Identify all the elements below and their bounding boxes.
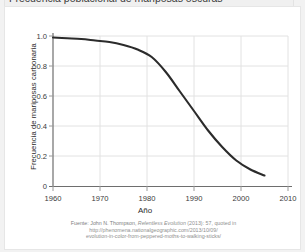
citation-prefix: Fuente: John N. Thompson,: [71, 220, 138, 226]
data-series-line: [53, 38, 265, 176]
x-tick-2010: 2010: [280, 194, 297, 203]
x-tick-1970: 1970: [92, 194, 109, 203]
source-citation: Fuente: John N. Thompson, Relentless Evo…: [5, 220, 302, 240]
x-tick-1990: 1990: [186, 194, 203, 203]
citation-line-3: evolution-in-color-from-peppered-moths-t…: [5, 233, 302, 240]
y-tick-0-6: 0.6: [23, 92, 47, 101]
page-title: Frecuencia poblacional de mariposas oscu…: [9, 0, 223, 5]
citation-line-1: Fuente: John N. Thompson, Relentless Evo…: [5, 220, 302, 227]
y-tick-0-8: 0.8: [23, 62, 47, 71]
axis-tick-marks: [49, 36, 288, 191]
citation-work-title: Relentless Evolution: [138, 220, 186, 226]
grid-lines: [53, 36, 288, 186]
x-tick-1980: 1980: [139, 194, 156, 203]
x-axis-ticks: 1960 1970 1980 1990 2000 2010: [5, 194, 302, 206]
y-tick-1-0: 1.0: [23, 32, 47, 41]
chart-canvas: [5, 7, 302, 212]
y-tick-0-4: 0.4: [23, 122, 47, 131]
chart-plot-area: Frecuencia de mariposas carbonaria 0 0.2…: [5, 7, 302, 212]
citation-line-2: http://phenomena.nationalgeographic.com/…: [5, 227, 302, 234]
citation-suffix: (2013): 57, quoted in: [186, 220, 236, 226]
y-tick-0: 0: [23, 182, 47, 191]
y-axis-ticks: 0 0.2 0.4 0.6 0.8 1.0: [19, 7, 47, 212]
x-tick-1960: 1960: [45, 194, 62, 203]
y-tick-0-2: 0.2: [23, 152, 47, 161]
x-tick-2000: 2000: [233, 194, 250, 203]
x-axis-label: Año: [5, 206, 285, 215]
figure-root: Frecuencia poblacional de mariposas oscu…: [0, 0, 305, 252]
figure-card: Frecuencia de mariposas carbonaria 0 0.2…: [4, 6, 301, 250]
